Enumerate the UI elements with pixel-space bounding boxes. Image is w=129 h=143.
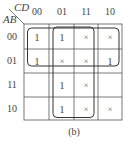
cell-10-10: × [98, 97, 122, 121]
row-header: 10 [3, 103, 21, 114]
col-header: 11 [74, 6, 98, 17]
col-header: 01 [50, 6, 74, 17]
row-header: 01 [3, 55, 21, 66]
cell-00-10: × [98, 25, 122, 49]
cell-00-11: × [74, 25, 98, 49]
cell-01-10: 1 [98, 49, 122, 73]
cell-10-11: × [74, 97, 98, 121]
row-header: 11 [3, 79, 21, 90]
figure-caption: (b) [60, 126, 88, 137]
karnaugh-map: CD AB 00 01 11 10 00 01 11 10 1 1 × × 1 … [0, 0, 129, 143]
cell-01-01: × [50, 49, 74, 73]
cell-11-01: 1 [50, 73, 74, 97]
cell-10-00 [25, 97, 49, 121]
cell-00-00: 1 [25, 25, 49, 49]
cell-10-01: 1 [50, 97, 74, 121]
cell-11-10 [98, 73, 122, 97]
row-header: 00 [3, 31, 21, 42]
cell-11-11: × [74, 73, 98, 97]
cell-11-00 [25, 73, 49, 97]
col-header: 00 [25, 6, 49, 17]
col-header: 10 [98, 6, 122, 17]
cell-01-00: 1 [25, 49, 49, 73]
cell-00-01: 1 [50, 25, 74, 49]
cell-01-11: × [74, 49, 98, 73]
row-variable-label: AB [3, 14, 16, 24]
